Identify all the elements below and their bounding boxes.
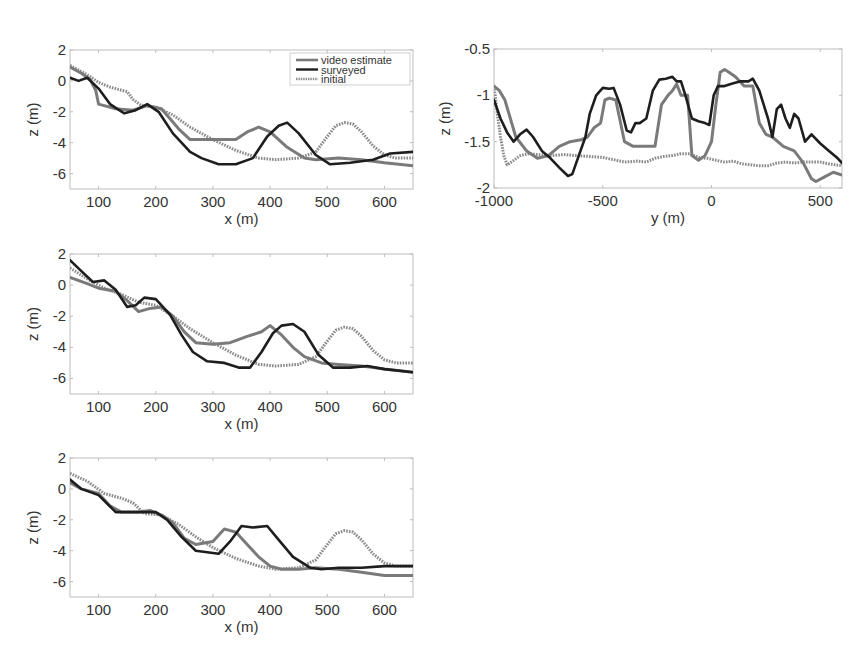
- y-tick-label: -4: [53, 134, 66, 151]
- y-tick-label: -4: [53, 542, 66, 559]
- x-axis-label: x (m): [224, 618, 258, 635]
- y-axis-label: z (m): [24, 307, 41, 341]
- y-tick-label: 2: [58, 449, 66, 466]
- figure-canvas: 10020030040050060020-2-4-6x (m)z (m) -10…: [0, 0, 865, 665]
- x-tick-label: 200: [143, 398, 168, 415]
- x-tick-label: 300: [200, 398, 225, 415]
- x-tick-label: 100: [86, 398, 111, 415]
- y-tick-label: 2: [58, 245, 66, 262]
- x-tick-label: 100: [86, 601, 111, 618]
- y-axis-label: z (m): [24, 510, 41, 544]
- y-tick-label: -6: [53, 573, 66, 590]
- y-tick-label: 0: [58, 72, 66, 89]
- x-tick-label: 500: [315, 193, 340, 210]
- x-tick-label: 600: [372, 193, 397, 210]
- y-tick-label: -0.5: [464, 40, 490, 57]
- y-axis-label: z (m): [24, 102, 41, 136]
- x-tick-label: -500: [588, 192, 618, 209]
- y-tick-label: -2: [477, 179, 490, 196]
- y-axis-label: z (m): [436, 101, 453, 135]
- y-tick-label: -6: [53, 369, 66, 386]
- x-tick-label: 400: [258, 601, 283, 618]
- y-tick-label: -2: [53, 103, 66, 120]
- x-tick-label: 400: [258, 193, 283, 210]
- panel-c: 10020030040050060020-2-4-6x (m)z (m): [24, 245, 413, 432]
- panel-d: 10020030040050060020-2-4-6x (m)z (m): [24, 449, 413, 635]
- y-tick-label: -4: [53, 338, 66, 355]
- x-axis-label: y (m): [651, 209, 685, 226]
- x-tick-label: 200: [143, 601, 168, 618]
- y-tick-label: -2: [53, 511, 66, 528]
- x-tick-label: 600: [372, 601, 397, 618]
- x-tick-label: 300: [200, 193, 225, 210]
- x-tick-label: 300: [200, 601, 225, 618]
- x-tick-label: 100: [86, 193, 111, 210]
- x-axis-label: x (m): [224, 210, 258, 227]
- x-tick-label: 500: [315, 398, 340, 415]
- panel-b: -1000-5000500-0.5-1-1.5-2y (m)z (m): [436, 40, 842, 226]
- legend-label: initial: [321, 73, 346, 85]
- x-axis-label: x (m): [224, 415, 258, 432]
- y-tick-label: 0: [58, 276, 66, 293]
- legend: video estimatesurveyedinitial: [290, 53, 410, 85]
- x-tick-label: 200: [143, 193, 168, 210]
- plot-frame: [494, 49, 842, 188]
- y-tick-label: -1: [477, 86, 490, 103]
- y-tick-label: -6: [53, 165, 66, 182]
- x-tick-label: 400: [258, 398, 283, 415]
- y-tick-label: 0: [58, 480, 66, 497]
- x-tick-label: 500: [808, 192, 833, 209]
- x-tick-label: 600: [372, 398, 397, 415]
- y-tick-label: -2: [53, 307, 66, 324]
- plot-frame: [70, 254, 413, 394]
- x-tick-label: 0: [707, 192, 715, 209]
- y-tick-label: 2: [58, 41, 66, 58]
- x-tick-label: 500: [315, 601, 340, 618]
- y-tick-label: -1.5: [464, 133, 490, 150]
